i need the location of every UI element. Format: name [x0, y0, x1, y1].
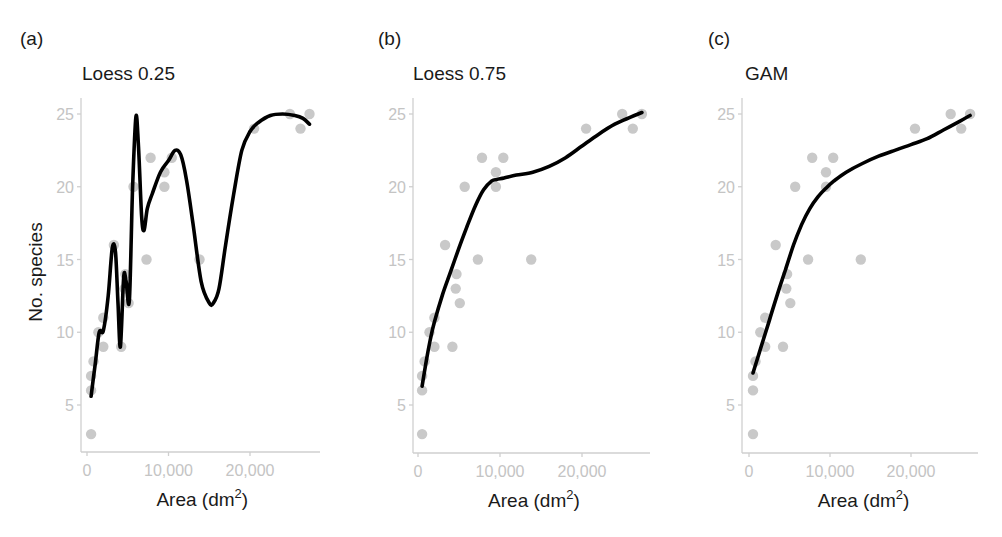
x-tick-label: 0 — [83, 462, 92, 479]
y-tick-label: 20 — [717, 179, 735, 196]
data-point — [828, 153, 838, 163]
y-axis-title: No. species — [25, 222, 46, 321]
x-tick-label: 0 — [414, 463, 423, 480]
data-point — [477, 153, 487, 163]
panel-title: Loess 0.75 — [413, 63, 506, 84]
x-tick-label: 0 — [745, 463, 754, 480]
x-tick-label: 20,000 — [887, 463, 936, 480]
data-point — [447, 342, 457, 352]
data-point — [748, 429, 758, 439]
x-axis-title: Area (dm2) — [156, 486, 248, 510]
x-axis-title: Area (dm2) — [488, 487, 580, 511]
y-tick-label: 15 — [56, 252, 74, 269]
panel-letter: (a) — [20, 28, 43, 49]
figure: (a) Loess 0.25 510152025010,00020,000Are… — [0, 0, 1002, 537]
panel-a: (a) Loess 0.25 510152025010,00020,000Are… — [20, 28, 320, 510]
data-points — [748, 109, 976, 440]
data-point — [440, 240, 450, 250]
data-point — [856, 254, 866, 264]
y-tick-label: 25 — [717, 106, 735, 123]
data-point — [628, 123, 638, 133]
data-point — [145, 153, 155, 163]
y-tick-label: 10 — [717, 324, 735, 341]
data-point — [821, 167, 831, 177]
data-point — [748, 385, 758, 395]
panel-letter: (b) — [378, 28, 401, 49]
data-point — [455, 298, 465, 308]
y-tick-label: 25 — [56, 106, 74, 123]
data-point — [141, 254, 151, 264]
data-point — [460, 182, 470, 192]
data-point — [295, 123, 305, 133]
y-tick-label: 5 — [65, 397, 74, 414]
data-point — [491, 182, 501, 192]
data-point — [956, 123, 966, 133]
data-point — [304, 109, 314, 119]
axes: 510152025010,00020,000Area (dm2) — [717, 98, 978, 511]
data-point — [778, 342, 788, 352]
data-point — [790, 182, 800, 192]
data-point — [159, 182, 169, 192]
data-point — [98, 342, 108, 352]
y-tick-label: 10 — [56, 324, 74, 341]
x-tick-label: 20,000 — [558, 463, 607, 480]
data-point — [526, 254, 536, 264]
panel-b: (b) Loess 0.75 510152025010,00020,000Are… — [378, 28, 650, 511]
axes: 510152025010,00020,000Area (dm2) — [388, 98, 650, 511]
y-tick-label: 15 — [388, 252, 406, 269]
panel-letter: (c) — [708, 28, 730, 49]
axes: 510152025010,00020,000Area (dm2) — [56, 98, 320, 510]
panel-c: (c) GAM 510152025010,00020,000Area (dm2) — [708, 28, 978, 511]
x-tick-label: 10,000 — [806, 463, 855, 480]
data-point — [781, 283, 791, 293]
x-axis-title: Area (dm2) — [818, 487, 910, 511]
y-tick-label: 15 — [717, 252, 735, 269]
data-point — [451, 283, 461, 293]
data-point — [771, 240, 781, 250]
data-point — [946, 109, 956, 119]
data-point — [807, 153, 817, 163]
data-point — [498, 153, 508, 163]
y-tick-label: 5 — [726, 397, 735, 414]
y-tick-label: 25 — [388, 106, 406, 123]
data-point — [803, 254, 813, 264]
data-point — [417, 429, 427, 439]
panel-title: GAM — [745, 63, 788, 84]
y-tick-label: 10 — [388, 324, 406, 341]
x-tick-label: 20,000 — [226, 462, 275, 479]
data-point — [473, 254, 483, 264]
y-tick-label: 20 — [388, 179, 406, 196]
data-point — [86, 429, 96, 439]
data-point — [785, 298, 795, 308]
y-tick-label: 20 — [56, 179, 74, 196]
data-point — [910, 123, 920, 133]
x-tick-label: 10,000 — [144, 462, 193, 479]
data-point — [581, 123, 591, 133]
data-point — [491, 167, 501, 177]
panel-title: Loess 0.25 — [82, 63, 175, 84]
y-tick-label: 5 — [397, 397, 406, 414]
fitted-curve — [753, 116, 970, 374]
x-tick-label: 10,000 — [476, 463, 525, 480]
